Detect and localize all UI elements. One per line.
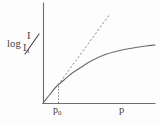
x-axis-tick-label-p0: p0: [53, 104, 62, 115]
y-axis-label-denominator: I1: [23, 43, 30, 54]
y-axis-label-denominator-subscript: 1: [27, 47, 31, 55]
y-axis-label: log I I1: [7, 31, 42, 57]
x-axis-label: p: [119, 104, 124, 115]
y-axis-label-fraction: I I1: [22, 31, 42, 57]
x-axis-tick-label-p0-subscript: 0: [58, 109, 62, 117]
plot-canvas: [0, 0, 161, 125]
y-axis-label-denominator-base: I: [23, 42, 27, 53]
figure-root: log I I1 p0 p: [0, 0, 161, 125]
y-axis-label-log: log: [7, 39, 21, 50]
measured-response-curve: [43, 45, 155, 103]
initial-slope-extrapolation-line: [58, 14, 110, 85]
